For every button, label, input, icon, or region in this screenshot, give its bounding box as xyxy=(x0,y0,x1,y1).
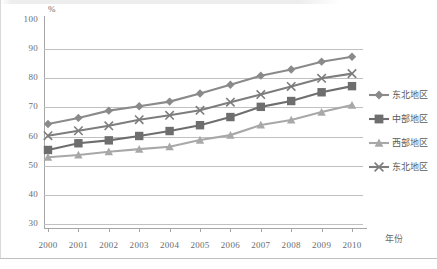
data-point xyxy=(317,88,325,96)
data-point xyxy=(348,82,356,90)
data-point xyxy=(135,132,143,140)
data-point xyxy=(257,71,265,79)
data-point xyxy=(226,80,234,88)
legend-diamond-icon xyxy=(368,84,390,106)
data-point xyxy=(74,114,82,122)
legend-label: 西部地区 xyxy=(392,136,428,149)
data-point xyxy=(135,102,143,110)
legend: 东北地区中部地区西部地区东北地区 xyxy=(368,84,437,180)
series-1 xyxy=(44,53,356,129)
data-point xyxy=(287,65,295,73)
data-point xyxy=(105,106,113,114)
data-point xyxy=(196,89,204,97)
data-point xyxy=(348,53,356,61)
data-point xyxy=(44,120,52,128)
data-point xyxy=(74,139,82,147)
legend-label: 中部地区 xyxy=(392,112,428,125)
legend-item[interactable]: 西部地区 xyxy=(368,132,437,156)
line-chart: % 10090807060504030 20002001200220032004… xyxy=(0,0,437,269)
data-point xyxy=(165,97,173,105)
data-point xyxy=(317,57,325,65)
data-point xyxy=(226,113,234,121)
legend-square-icon xyxy=(368,108,390,130)
legend-cross-icon xyxy=(368,156,390,178)
legend-label: 东北地区 xyxy=(392,160,428,173)
data-point xyxy=(257,103,265,111)
data-point xyxy=(44,146,52,154)
data-point xyxy=(196,121,204,129)
data-point xyxy=(105,136,113,144)
legend-triangle-icon xyxy=(368,132,390,154)
legend-item[interactable]: 东北地区 xyxy=(368,156,437,180)
legend-label: 东北地区 xyxy=(392,88,428,101)
legend-item[interactable]: 东北地区 xyxy=(368,84,437,108)
data-point xyxy=(165,127,173,135)
data-point xyxy=(287,97,295,105)
legend-item[interactable]: 中部地区 xyxy=(368,108,437,132)
series-line xyxy=(48,105,352,157)
